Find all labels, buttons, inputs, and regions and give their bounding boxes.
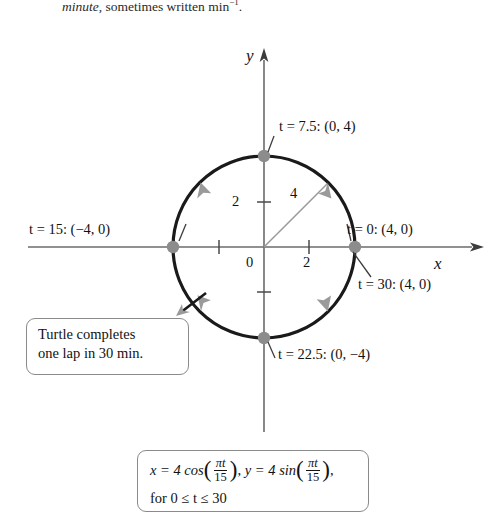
leader-line-t7_5 [268, 136, 274, 152]
equation-domain: for 0 ≤ t ≤ 30 [150, 489, 358, 508]
turtle-note-line-2: one lap in 30 min. [38, 344, 178, 363]
x-tick-label-two: 2 [303, 254, 310, 271]
turtle-note-line-1: Turtle completes [38, 325, 178, 344]
label-t0: t = 0: (4, 0) [347, 221, 413, 238]
turtle-note-callout: Turtle completes one lap in 30 min. [26, 318, 189, 375]
radius-label: 4 [290, 185, 297, 202]
label-t22_5: t = 22.5: (0, −4) [278, 346, 370, 363]
leader-line-t22_5 [268, 342, 275, 358]
equation-callout: x = 4 cos(πt15), y = 4 sin(πt15), for 0 … [137, 450, 369, 512]
fraction-x: πt15 [212, 457, 229, 484]
equation-x-lhs: x = 4 cos [150, 462, 204, 478]
fraction-x-denominator: 15 [212, 471, 229, 484]
label-t30: t = 30: (4, 0) [358, 276, 431, 293]
fraction-y: πt15 [305, 457, 322, 484]
equation-y-lhs: y = 4 sin [245, 462, 296, 478]
fraction-y-denominator: 15 [305, 471, 322, 484]
parametric-circle-figure: minute, sometimes written min−1. [0, 0, 496, 517]
x-axis-label: x [434, 254, 442, 274]
fraction-x-numerator: πt [214, 457, 228, 471]
label-t7_5: t = 7.5: (0, 4) [279, 118, 356, 135]
equation-line-1: x = 4 cos(πt15), y = 4 sin(πt15), [150, 458, 358, 485]
leader-line-t15 [179, 224, 186, 241]
x-axis-arrowhead [470, 243, 484, 252]
y-tick-label-two: 2 [232, 193, 239, 210]
y-axis-label: y [246, 46, 254, 66]
label-t15: t = 15: (−4, 0) [29, 221, 110, 238]
fraction-y-numerator: πt [306, 457, 320, 471]
equation-comma-1: , [238, 462, 242, 478]
leader-line-t30 [353, 252, 371, 277]
point-t15 [167, 241, 179, 253]
equation-comma-2: , [330, 462, 334, 478]
origin-label: 0 [246, 254, 253, 271]
point-t0-t30 [349, 241, 361, 253]
y-axis-arrowhead [260, 48, 269, 62]
